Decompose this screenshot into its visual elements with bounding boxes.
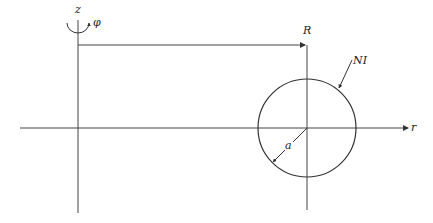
toroid-diagram: z φ r R NI a xyxy=(0,0,433,223)
current-pointer xyxy=(339,60,352,88)
current-label: NI xyxy=(352,54,368,67)
major-radius-label: R xyxy=(302,24,311,37)
phi-label: φ xyxy=(93,16,101,29)
z-axis-label: z xyxy=(74,3,81,16)
r-axis-label: r xyxy=(411,121,417,134)
minor-radius-label: a xyxy=(285,139,292,152)
